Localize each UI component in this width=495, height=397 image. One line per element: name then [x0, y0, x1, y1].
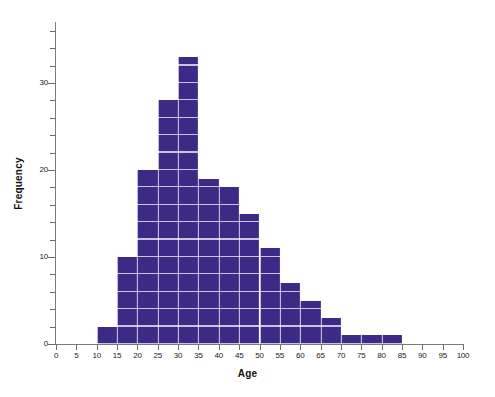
histogram-bar	[97, 327, 117, 344]
x-tick	[97, 345, 98, 350]
y-tick-minor	[50, 118, 55, 119]
histogram-chart: 0510152025303540455055606570758085909510…	[0, 0, 495, 397]
y-tick-major	[48, 83, 55, 84]
histogram-bar	[198, 179, 218, 344]
y-tick-major	[48, 257, 55, 258]
histogram-bar	[361, 335, 381, 344]
x-tick	[422, 345, 423, 350]
x-tick	[198, 345, 199, 350]
histogram-bar	[117, 257, 137, 344]
y-tick-label: 0	[18, 339, 48, 348]
histogram-bar	[341, 335, 361, 344]
x-tick	[178, 345, 179, 350]
y-tick-minor	[50, 135, 55, 136]
x-tick	[239, 345, 240, 350]
y-axis-title: Frequency	[13, 104, 24, 264]
y-tick-minor	[50, 222, 55, 223]
x-axis-title: Age	[0, 368, 495, 379]
y-tick-minor	[50, 48, 55, 49]
x-tick	[321, 345, 322, 350]
histogram-bar	[158, 100, 178, 344]
y-tick-minor	[50, 292, 55, 293]
x-tick	[158, 345, 159, 350]
histogram-bar	[260, 248, 280, 344]
x-tick	[382, 345, 383, 350]
y-tick-minor	[50, 274, 55, 275]
y-tick-minor	[50, 240, 55, 241]
histogram-bar	[178, 57, 198, 344]
x-tick	[402, 345, 403, 350]
histogram-bar	[137, 170, 157, 344]
histogram-bar	[239, 214, 259, 345]
histogram-bar	[219, 187, 239, 344]
x-tick	[361, 345, 362, 350]
histogram-bar	[280, 283, 300, 344]
y-tick-minor	[50, 100, 55, 101]
x-tick	[443, 345, 444, 350]
x-tick	[280, 345, 281, 350]
x-tick	[76, 345, 77, 350]
x-tick	[137, 345, 138, 350]
y-tick-minor	[50, 66, 55, 67]
y-tick-minor	[50, 205, 55, 206]
y-tick-minor	[50, 309, 55, 310]
x-tick	[260, 345, 261, 350]
y-tick-label: 30	[18, 78, 48, 87]
x-tick	[117, 345, 118, 350]
plot-area	[56, 22, 463, 344]
x-tick	[219, 345, 220, 350]
y-tick-major	[48, 344, 55, 345]
x-tick	[300, 345, 301, 350]
x-tick	[56, 345, 57, 350]
y-tick-major	[48, 170, 55, 171]
x-tick	[341, 345, 342, 350]
x-tick	[463, 345, 464, 350]
y-tick-minor	[50, 187, 55, 188]
histogram-bar	[300, 301, 320, 345]
y-tick-minor	[50, 31, 55, 32]
y-tick-minor	[50, 153, 55, 154]
x-tick-label: 100	[448, 351, 478, 360]
histogram-bar	[382, 335, 402, 344]
y-tick-minor	[50, 327, 55, 328]
histogram-bar	[321, 318, 341, 344]
